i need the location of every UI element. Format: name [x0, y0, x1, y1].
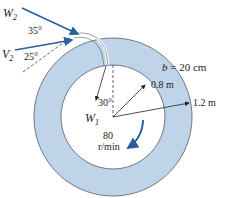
- label-angle-25: 25°: [24, 51, 38, 62]
- label-speed-value: 80: [103, 130, 113, 141]
- diagram-canvas: W2 35° V2 25° 30° W1 b = 20 cm 0.8 m 1.2…: [0, 0, 227, 198]
- label-angle-35: 35°: [28, 25, 42, 36]
- w1-arrow: [96, 66, 106, 100]
- label-outer-radius: 1.2 m: [193, 97, 216, 108]
- label-speed-unit: r/min: [98, 141, 120, 152]
- rotation-arrow: [128, 120, 143, 148]
- label-angle-30: 30°: [98, 97, 112, 108]
- v2-arrow: [15, 40, 72, 50]
- label-inner-radius: 0.8 m: [151, 79, 174, 90]
- label-w2: W2: [3, 6, 17, 22]
- label-width: b = 20 cm: [162, 61, 207, 73]
- label-v2: V2: [2, 47, 13, 63]
- impeller-diagram: W2 35° V2 25° 30° W1 b = 20 cm 0.8 m 1.2…: [0, 0, 227, 198]
- label-w1: W1: [85, 111, 99, 127]
